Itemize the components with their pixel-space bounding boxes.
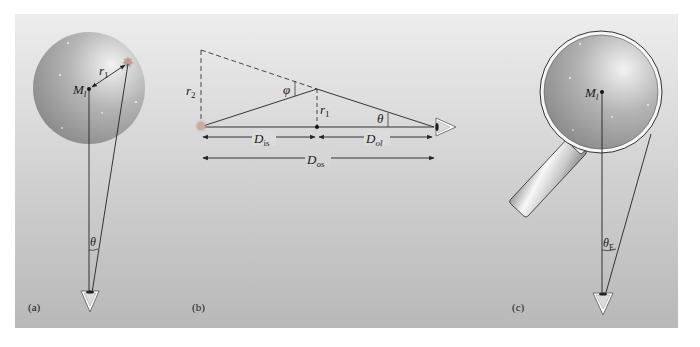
distance-ol-label: D [365,131,376,146]
panel-b-caption: (b) [192,301,205,314]
gravitational-lensing-figure: Ml r1 θ (a) [0,0,700,347]
angle-theta-label: θ [377,111,384,126]
lens-point-dot [315,125,319,129]
panel-a-caption: (a) [28,301,41,314]
panel-c-caption: (c) [512,301,525,314]
distance-os-label: D [306,152,317,167]
angle-phi-label: φ [283,82,290,97]
source-star-icon [195,120,207,132]
distance-is-label: D [253,131,264,146]
angle-theta-label: θ [90,235,96,249]
